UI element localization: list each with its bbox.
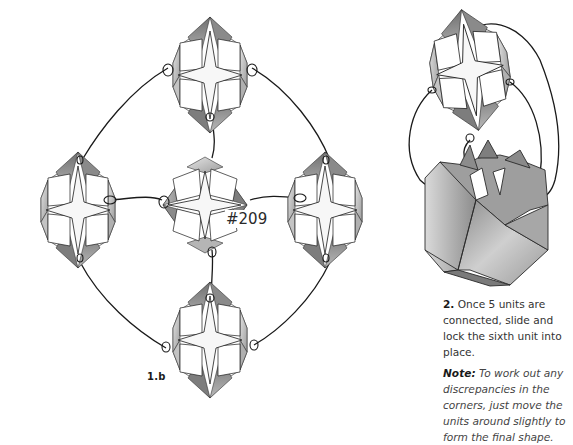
step-2-text: 2. Once 5 units are connected, slide and… <box>443 296 573 360</box>
assembled-cube <box>425 140 548 286</box>
figure-1b <box>41 17 362 398</box>
step-label-1b: 1.b <box>147 371 166 382</box>
note-text: Note: To work out any discrepancies in t… <box>443 365 573 445</box>
step-number: 2. <box>443 298 454 310</box>
origami-unit-center <box>163 157 247 253</box>
note-label: Note: <box>443 367 476 379</box>
figure-2 <box>409 4 558 286</box>
origami-unit-right <box>288 152 362 268</box>
origami-unit-left <box>41 152 115 268</box>
origami-unit-bottom <box>173 282 247 398</box>
origami-unit-top <box>173 17 247 133</box>
model-number-label: #209 <box>225 210 268 228</box>
origami-unit-sixth <box>423 4 517 135</box>
instructions-panel: 2. Once 5 units are connected, slide and… <box>443 296 573 445</box>
step-description: Once 5 units are connected, slide and lo… <box>443 298 562 358</box>
